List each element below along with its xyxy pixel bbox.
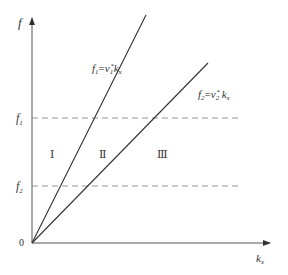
y-axis-label: f [18, 15, 24, 30]
region-2-label: Ⅱ [99, 148, 106, 160]
line-f1-equation: f1=v1*kx [92, 62, 123, 76]
dispersion-diagram: f kx 0 f1 f2 f1=v1*kx f2=v2*kx Ⅰ Ⅱ Ⅲ [0, 0, 288, 275]
x-axis-label: kx [256, 252, 265, 266]
f2-label: f2 [16, 179, 23, 195]
line-f1 [32, 15, 146, 243]
origin-label: 0 [19, 237, 24, 248]
line-f2 [32, 63, 208, 243]
region-1-label: Ⅰ [50, 148, 54, 160]
region-3-label: Ⅲ [157, 148, 168, 160]
line-f2-equation: f2=v2*kx [198, 88, 231, 102]
f1-label: f1 [16, 111, 23, 127]
